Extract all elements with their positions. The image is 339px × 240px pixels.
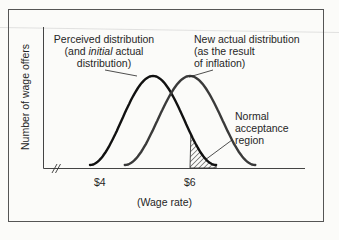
x-axis-title: (Wage rate) xyxy=(137,196,192,208)
new-actual-label-line2: (as the result xyxy=(194,45,300,57)
perceived-label-line2: (and initial actual xyxy=(48,45,160,57)
perceived-pointer xyxy=(105,70,137,76)
perceived-label-italic: initial xyxy=(89,45,113,57)
new-actual-label-line3: of inflation) xyxy=(194,57,300,69)
x-tick-label-6: $6 xyxy=(184,176,196,188)
perceived-label-text: (and xyxy=(65,45,89,57)
acceptance-label: Normal acceptance region xyxy=(235,110,289,146)
new-actual-label-line1: New actual distribution xyxy=(194,33,300,45)
perceived-label: Perceived distribution (and initial actu… xyxy=(48,33,160,69)
acceptance-pointer xyxy=(205,140,232,160)
x-tick-label-4: $4 xyxy=(94,176,106,188)
acceptance-label-line2: acceptance xyxy=(235,122,289,134)
acceptance-label-line3: region xyxy=(235,134,289,146)
perceived-label-line1: Perceived distribution xyxy=(48,33,160,45)
page-rule-line xyxy=(0,28,339,33)
new-actual-label: New actual distribution (as the result o… xyxy=(194,33,300,69)
perceived-label-line3: distribution) xyxy=(48,57,160,69)
perceived-label-text: actual xyxy=(112,45,143,57)
new-actual-pointer xyxy=(189,70,213,77)
acceptance-label-line1: Normal xyxy=(235,110,289,122)
y-axis-title: Number of wage offers xyxy=(19,44,31,150)
